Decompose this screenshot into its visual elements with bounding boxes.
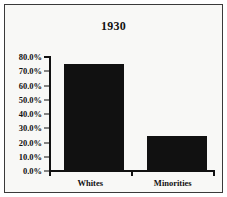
- chart-frame: 1930 0.0%10.0%20.0%30.0%40.0%50.0%60.0%7…: [4, 4, 223, 193]
- y-axis-tick-mark: [44, 99, 49, 100]
- x-axis-tick-mark: [131, 170, 133, 176]
- y-axis-tick-mark: [44, 85, 49, 86]
- x-axis-label-whites: Whites: [49, 178, 132, 188]
- bar-minorities: [147, 136, 207, 171]
- x-axis-label-minorities: Minorities: [132, 178, 215, 188]
- y-axis-tick-mark: [44, 56, 49, 58]
- chart-title: 1930: [5, 19, 222, 33]
- y-axis-tick-mark: [44, 156, 49, 157]
- y-axis-tick-mark: [44, 142, 49, 143]
- x-axis-tick-mark: [213, 170, 215, 176]
- x-axis-origin-tick-mark: [49, 170, 51, 176]
- y-axis-tick-mark: [44, 114, 49, 115]
- plot-area: 0.0%10.0%20.0%30.0%40.0%50.0%60.0%70.0%8…: [49, 57, 214, 171]
- chart-figure: 1930 0.0%10.0%20.0%30.0%40.0%50.0%60.0%7…: [0, 0, 227, 197]
- y-axis-tick-mark: [44, 71, 49, 72]
- bar-whites: [64, 64, 124, 171]
- y-axis-tick-mark: [44, 128, 49, 129]
